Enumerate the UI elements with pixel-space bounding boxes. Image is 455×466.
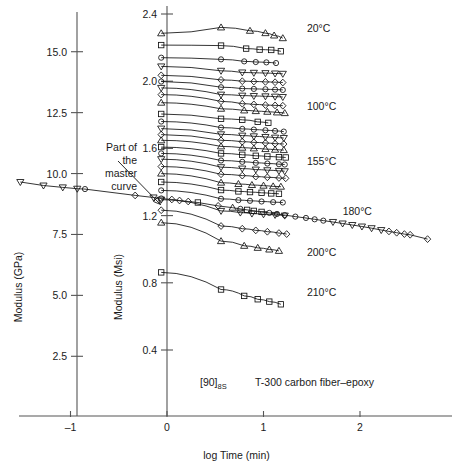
marker-triangle-down (250, 93, 257, 99)
marker-triangle-down (239, 166, 246, 172)
y-axis-title-left: Modulus (GPa) (12, 252, 24, 323)
y-tick-label-left: 15.0 (47, 46, 68, 58)
y-tick-label-right: 0.4 (142, 344, 157, 356)
temperature-label: 155°C (307, 155, 337, 167)
marker-triangle-up (217, 24, 224, 30)
marker-triangle-down (250, 70, 257, 76)
y-tick-label-left: 7.5 (52, 228, 67, 240)
master-curve-note-line: curve (111, 180, 137, 192)
marker-triangle-down (158, 85, 165, 91)
marker-triangle-down (262, 71, 269, 77)
x-tick-label: 0 (164, 421, 170, 433)
x-axis-title: log Time (min) (203, 449, 270, 461)
y-tick-label-left: 10.0 (47, 168, 68, 180)
marker-triangle-down (252, 167, 259, 173)
marker-triangle-up (158, 30, 165, 36)
x-tick-label: –1 (65, 421, 77, 433)
temperature-label: 20°C (307, 22, 331, 34)
marker-triangle-down (217, 68, 224, 74)
marker-triangle-up (158, 99, 165, 105)
marker-triangle-down (271, 71, 278, 77)
temperature-label: 200°C (307, 246, 337, 258)
master-curve-note-line: master (105, 167, 138, 179)
series-line-curve-19 (161, 174, 281, 187)
chart-canvas: –1012log Time (min)2.55.07.510.012.515.0… (0, 0, 455, 466)
temperature-label: 180°C (343, 205, 373, 217)
temperature-label: 100°C (307, 100, 337, 112)
y-tick-label-right: 2.0 (142, 75, 157, 87)
marker-triangle-up (158, 219, 165, 225)
marker-triangle-down (264, 168, 271, 174)
marker-triangle-up (158, 170, 165, 176)
marker-triangle-down (239, 70, 246, 76)
marker-triangle-down (262, 94, 269, 100)
temperature-label: 210°C (307, 286, 337, 298)
marker-triangle-down (279, 94, 286, 100)
marker-triangle-down (239, 93, 246, 99)
material-label: T-300 carbon fiber–epoxy (255, 376, 375, 388)
series-line-curve-25 (161, 272, 281, 304)
specimen-label: [90]8S (200, 376, 227, 391)
marker-triangle-down (217, 92, 224, 98)
y-axis-title-right: Modulus (Msi) (112, 254, 124, 320)
marker-triangle-up (279, 35, 286, 41)
master-curve-note-line: Part of (106, 141, 137, 153)
marker-triangle-up (271, 32, 278, 38)
y-tick-label-right: 1.2 (142, 210, 157, 222)
master-curve-note-line: the (122, 154, 137, 166)
y-tick-label-left: 2.5 (52, 350, 67, 362)
marker-triangle-down (158, 157, 165, 163)
x-tick-label: 2 (357, 421, 363, 433)
chart-figure: –1012log Time (min)2.55.07.510.012.515.0… (0, 0, 455, 466)
marker-triangle-down (217, 165, 224, 171)
marker-triangle-down (237, 210, 244, 216)
y-tick-label-right: 0.8 (142, 277, 157, 289)
marker-triangle-down (158, 64, 165, 70)
marker-triangle-down (279, 71, 286, 77)
y-tick-label-left: 12.5 (47, 107, 68, 119)
marker-triangle-up (241, 242, 248, 248)
series-line-curve-01 (161, 27, 283, 38)
y-tick-label-right: 1.6 (142, 142, 157, 154)
series-line-curve-23 (161, 210, 287, 234)
y-tick-label-left: 5.0 (52, 289, 67, 301)
series-line-curve-24 (161, 223, 279, 251)
x-tick-label: 1 (261, 421, 267, 433)
y-tick-label-right: 2.4 (142, 8, 157, 20)
